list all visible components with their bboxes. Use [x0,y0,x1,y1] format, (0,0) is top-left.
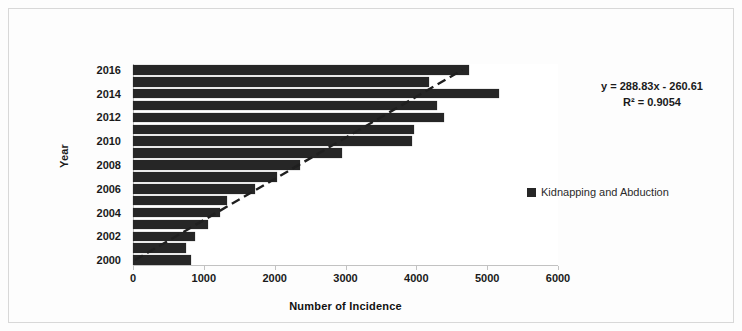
bar-row [133,77,558,87]
regression-equation-line: y = 288.83x - 260.61 [572,78,732,94]
x-tick-label: 4000 [404,272,428,284]
bar-2006 [133,184,255,194]
y-tick-label-2012: 2012 [97,112,121,122]
bar-row [133,89,558,99]
x-tick-mark [416,266,417,270]
bar-row [133,232,558,242]
bar-2014 [133,89,499,99]
x-tick-mark [133,266,134,270]
bar-2000 [133,255,191,265]
r-squared-line: R² = 0.9054 [572,94,732,110]
bar-row [133,65,558,75]
bar-2002 [133,232,195,242]
y-tick-label-2000: 2000 [97,255,121,265]
x-tick-label: 6000 [546,272,570,284]
x-tick-label: 2000 [262,272,286,284]
bar-2011 [133,125,414,135]
bar-2007 [133,172,277,182]
bar-row [133,148,558,158]
y-tick-label-2006: 2006 [97,184,121,194]
y-tick-label-2004: 2004 [97,208,121,218]
bar-row [133,125,558,135]
plot-area [133,64,558,266]
y-axis-tick-labels: 200020022004200620082010201220142016 [55,64,127,266]
y-tick-label-2008: 2008 [97,160,121,170]
bar-row [133,160,558,170]
chart-figure: Year 20002002200420062008201020122014201… [0,0,742,331]
bar-row [133,172,558,182]
x-tick-mark [487,266,488,270]
x-tick-label: 3000 [333,272,357,284]
bar-2012 [133,113,444,123]
x-tick-label: 1000 [192,272,216,284]
x-tick-mark [204,266,205,270]
x-axis-tick-labels: 0100020003000400050006000 [133,272,563,290]
bar-2009 [133,148,342,158]
y-tick-label-2002: 2002 [97,231,121,241]
bar-row [133,220,558,230]
bar-row [133,243,558,253]
bar-row [133,196,558,206]
legend-swatch-icon [527,188,536,197]
bar-2001 [133,243,186,253]
x-tick-mark [275,266,276,270]
bar-row [133,255,558,265]
bar-row [133,113,558,123]
x-axis-title: Number of Incidence [133,300,558,312]
x-tick-mark [346,266,347,270]
bar-row [133,101,558,111]
chart-legend: Kidnapping and Abduction [527,186,669,198]
bar-2003 [133,220,208,230]
x-tick-mark [558,266,559,270]
y-tick-label-2016: 2016 [97,65,121,75]
bar-2010 [133,136,412,146]
bar-2008 [133,160,300,170]
bar-2005 [133,196,227,206]
bar-row [133,136,558,146]
x-tick-label: 0 [130,272,136,284]
bar-2016 [133,65,469,75]
bar-row [133,184,558,194]
bar-2004 [133,208,220,218]
bar-2013 [133,101,437,111]
y-tick-label-2014: 2014 [97,89,121,99]
legend-item-label: Kidnapping and Abduction [541,186,669,198]
bar-series-kidnapping-and-abduction [133,64,558,266]
y-tick-label-2010: 2010 [97,136,121,146]
x-tick-label: 5000 [475,272,499,284]
bar-row [133,208,558,218]
bar-2015 [133,77,429,87]
regression-equation-annotation: y = 288.83x - 260.61 R² = 0.9054 [572,78,732,110]
